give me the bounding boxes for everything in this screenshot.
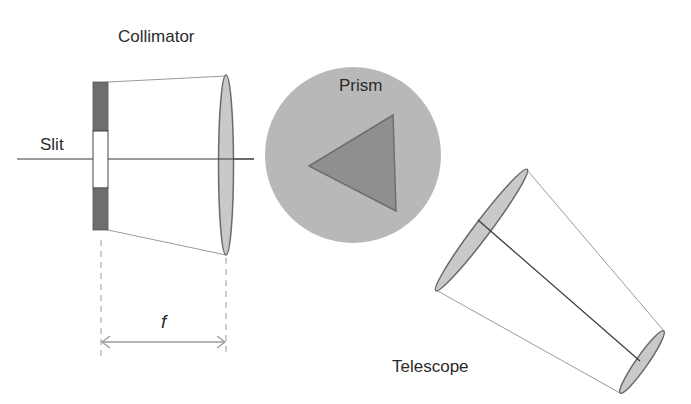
- slit-bar-bottom: [93, 188, 108, 230]
- collimator-lens-icon: [219, 75, 234, 255]
- telescope-label: Telescope: [392, 357, 469, 376]
- focal-length-guides: [101, 240, 226, 356]
- telescope-objective-lens-icon: [429, 164, 533, 295]
- prism-label: Prism: [339, 76, 382, 95]
- telescope-eyepiece-lens-icon: [615, 327, 668, 396]
- slit-assembly: [93, 82, 108, 230]
- focal-length-arrow: [102, 336, 225, 348]
- focal-length-label: f: [161, 311, 168, 332]
- spectrometer-diagram: Collimator Slit f Prism: [0, 0, 691, 404]
- collimator-label: Collimator: [118, 27, 195, 46]
- slit-bar-top: [93, 82, 108, 131]
- slit-label: Slit: [40, 135, 64, 154]
- slit-opening: [93, 131, 108, 188]
- telescope-axis-line: [478, 220, 640, 361]
- collimator-cone: [108, 76, 226, 255]
